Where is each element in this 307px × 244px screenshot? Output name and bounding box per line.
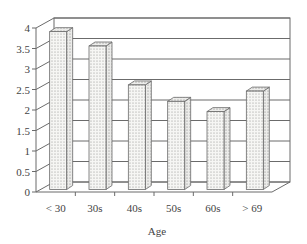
bar (128, 81, 151, 190)
y-tick-label: 0 (25, 186, 31, 198)
bar (207, 108, 230, 190)
y-tick-label: 4 (25, 22, 31, 34)
bar (246, 87, 269, 189)
x-tick-label: 50s (166, 202, 181, 214)
y-tick-label: 1 (25, 145, 31, 157)
x-tick-label: < 30 (46, 202, 66, 214)
y-tick-label: 1.5 (16, 125, 30, 137)
x-tick-label: 60s (205, 202, 220, 214)
bar-chart: 00.511.522.533.54 < 3030s40s50s60s> 69 A… (0, 0, 307, 244)
x-tick-label: 30s (87, 202, 102, 214)
y-tick-label: 2.5 (16, 84, 30, 96)
x-axis-tick-labels: < 3030s40s50s60s> 69 (46, 202, 263, 214)
y-tick-label: 0.5 (16, 166, 30, 178)
y-tick-label: 3 (25, 63, 31, 75)
x-axis-title: Age (148, 225, 166, 237)
bar (50, 28, 73, 190)
y-axis-tick-labels: 00.511.522.533.54 (16, 22, 30, 198)
x-tick-label: 40s (127, 202, 142, 214)
y-tick-label: 2 (25, 104, 31, 116)
x-tick-label: > 69 (242, 202, 262, 214)
y-tick-label: 3.5 (16, 43, 30, 55)
bar (168, 97, 191, 189)
bar (89, 42, 112, 190)
